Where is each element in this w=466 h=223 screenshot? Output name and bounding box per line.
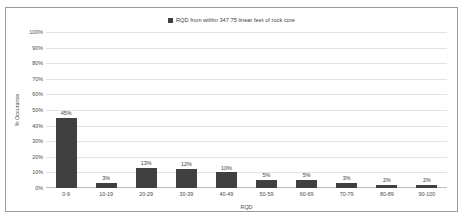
bar-column[interactable]: 5% — [287, 32, 327, 188]
y-axis-tick-label: 50% — [32, 107, 43, 113]
bar-value-label: 2% — [423, 178, 431, 183]
bar-value-label: 13% — [141, 161, 152, 166]
bar-value-label: 5% — [303, 173, 311, 178]
bar[interactable] — [256, 180, 277, 188]
bar-column[interactable]: 5% — [246, 32, 286, 188]
bar-column[interactable]: 3% — [327, 32, 367, 188]
bar-value-label: 10% — [221, 166, 232, 171]
bar[interactable] — [336, 183, 357, 188]
y-axis-tick-label: 80% — [32, 60, 43, 66]
x-axis-tick-label: 60-69 — [287, 191, 327, 197]
y-axis-tick-label: 20% — [32, 154, 43, 160]
x-axis-tick-label: 40-49 — [206, 191, 246, 197]
y-axis-tick-label: 100% — [29, 29, 43, 35]
bar-column[interactable]: 12% — [166, 32, 206, 188]
x-axis-tick-label: 10-19 — [86, 191, 126, 197]
bar[interactable] — [56, 118, 77, 188]
legend-swatch-icon — [168, 18, 173, 23]
bar[interactable] — [136, 168, 157, 188]
bar-column[interactable]: 10% — [206, 32, 246, 188]
y-axis-tick-label: 40% — [32, 123, 43, 129]
plot-area: 100%90%80%70%60%50%40%30%20%10%0% 45%3%1… — [46, 32, 447, 188]
x-axis-tick-label: 80-89 — [367, 191, 407, 197]
bar-column[interactable]: 3% — [86, 32, 126, 188]
x-axis-tick-label: 0-9 — [46, 191, 86, 197]
x-axis-ticks: 0-910-1920-2930-3940-4950-5960-6970-7980… — [46, 191, 447, 197]
chart-frame: RQD from within 347.75 linear feet of ro… — [5, 7, 458, 212]
x-axis-tick-label: 70-79 — [327, 191, 367, 197]
x-axis-tick-label: 50-59 — [246, 191, 286, 197]
bar[interactable] — [216, 172, 237, 188]
bar-value-label: 2% — [383, 178, 391, 183]
bar-value-label: 5% — [263, 173, 271, 178]
bar-series: 45%3%13%12%10%5%5%3%2%2% — [46, 32, 447, 188]
bar[interactable] — [416, 185, 437, 188]
bar-column[interactable]: 45% — [46, 32, 86, 188]
chart-legend: RQD from within 347.75 linear feet of ro… — [6, 17, 457, 23]
bar-column[interactable]: 13% — [126, 32, 166, 188]
legend-label: RQD from within 347.75 linear feet of ro… — [176, 17, 295, 23]
x-axis-tick-label: 30-39 — [166, 191, 206, 197]
bar-column[interactable]: 2% — [407, 32, 447, 188]
y-axis-tick-label: 70% — [32, 76, 43, 82]
x-axis-tick-label: 20-29 — [126, 191, 166, 197]
bar-value-label: 3% — [343, 176, 351, 181]
bar-value-label: 45% — [61, 111, 72, 116]
x-axis-title: RQD — [46, 204, 447, 210]
y-axis-tick-label: 0% — [35, 185, 43, 191]
bar[interactable] — [296, 180, 317, 188]
x-axis-tick-label: 90-100 — [407, 191, 447, 197]
y-axis-tick-label: 90% — [32, 45, 43, 51]
bar-column[interactable]: 2% — [367, 32, 407, 188]
bar[interactable] — [376, 185, 397, 188]
bar-value-label: 3% — [102, 176, 110, 181]
bar[interactable] — [96, 183, 117, 188]
y-axis-title: % Occurance — [14, 94, 20, 126]
y-axis-tick-label: 10% — [32, 169, 43, 175]
y-axis-tick-label: 60% — [32, 91, 43, 97]
bar-value-label: 12% — [181, 162, 192, 167]
y-axis-tick-label: 30% — [32, 138, 43, 144]
bar[interactable] — [176, 169, 197, 188]
